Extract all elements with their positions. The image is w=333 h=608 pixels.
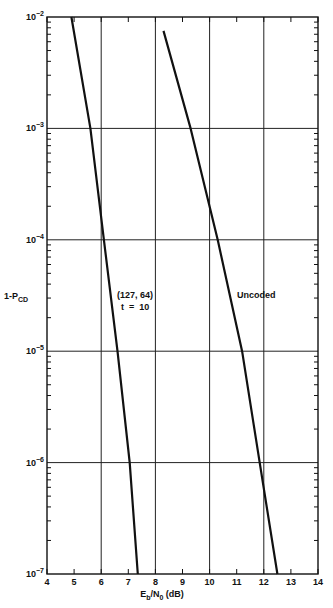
x-tick-label: 13 [286,577,296,587]
series-label-coded-line1: (127, 64) [117,290,153,300]
x-tick-label: 4 [44,577,49,587]
chart: 4567891011121314 10−210−310−410−510−610−… [0,0,333,608]
series-label-coded-line2: t = 10 [121,302,149,312]
series-line-uncoded [164,31,278,574]
y-axis-ticks: 10−210−310−410−510−610−7 [26,10,44,579]
y-tick-label: 10−6 [26,456,44,468]
x-axis-label: Eb/N0 (dB) [140,589,184,601]
y-tick-label: 10−2 [26,10,44,22]
x-tick-label: 11 [232,577,242,587]
y-axis-label: 1-PCD [4,291,28,303]
x-tick-label: 12 [259,577,269,587]
y-axis-label-subscript: CD [18,296,28,303]
y-tick-label: 10−5 [26,344,44,356]
y-tick-label: 10−3 [26,121,44,133]
x-tick-label: 9 [180,577,185,587]
x-tick-label: 6 [99,577,104,587]
x-tick-label: 5 [72,577,77,587]
x-tick-label: 7 [126,577,131,587]
x-tick-label: 8 [153,577,158,587]
y-tick-label: 10−7 [26,567,44,579]
y-tick-label: 10−4 [26,233,44,245]
x-tick-label: 14 [313,577,323,587]
x-tick-label: 10 [205,577,215,587]
series-label-uncoded: Uncoded [237,290,276,300]
